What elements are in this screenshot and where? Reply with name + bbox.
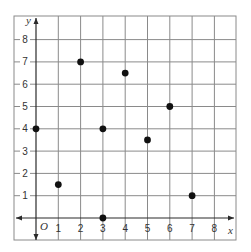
data-point [100, 125, 107, 132]
y-tick-label: 1 [22, 190, 28, 201]
data-point [100, 215, 107, 222]
x-tick-label: 3 [100, 223, 106, 234]
data-point [144, 137, 151, 144]
x-tick-label: 1 [56, 223, 62, 234]
y-tick-label: 4 [22, 123, 28, 134]
y-tick-label: 6 [22, 79, 28, 90]
data-point [77, 59, 84, 66]
data-point [122, 70, 129, 77]
data-points [33, 59, 196, 222]
data-point [166, 103, 173, 110]
data-point [55, 181, 62, 188]
data-point [189, 192, 196, 199]
x-axis-left-arrow-icon [16, 216, 22, 221]
x-tick-label: 8 [212, 223, 218, 234]
y-tick-label: 3 [22, 146, 28, 157]
y-axis-up-arrow-icon [34, 18, 39, 24]
x-axis-right-arrow-icon [228, 216, 234, 221]
x-tick-label: 5 [145, 223, 151, 234]
scatter-plot: 1234567812345678 x y O [0, 0, 251, 252]
x-axis-label: x [227, 224, 233, 236]
x-tick-label: 7 [189, 223, 195, 234]
y-axis-label: y [25, 14, 31, 26]
y-tick-label: 2 [22, 168, 28, 179]
grid-lines [14, 16, 236, 240]
y-axis-down-arrow-icon [34, 234, 39, 240]
y-tick-label: 7 [22, 56, 28, 67]
tick-labels: 1234567812345678 [20, 34, 218, 234]
origin-label: O [40, 220, 48, 232]
x-tick-label: 6 [167, 223, 173, 234]
y-tick-label: 5 [22, 101, 28, 112]
y-tick-label: 8 [22, 34, 28, 45]
x-tick-label: 2 [78, 223, 84, 234]
x-tick-label: 4 [122, 223, 128, 234]
data-point [33, 125, 40, 132]
